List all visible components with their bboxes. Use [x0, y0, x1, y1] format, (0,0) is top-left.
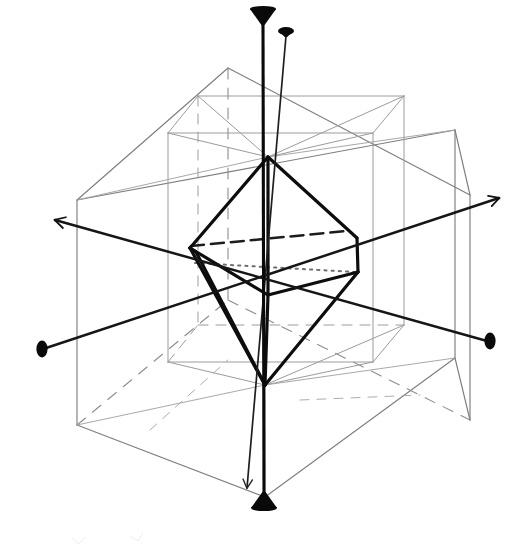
figure-canvas: Symmetry axes of a cubic (isometric) cry…	[0, 0, 526, 560]
solid-knob-right-lower	[484, 333, 495, 350]
vertical-axis-line	[263, 24, 264, 494]
crystal-axes-diagram: Symmetry axes of a cubic (isometric) cry…	[0, 0, 526, 560]
solid-knob-left-lower	[36, 341, 47, 358]
octahedron-edge-equator-right-v	[357, 238, 358, 272]
